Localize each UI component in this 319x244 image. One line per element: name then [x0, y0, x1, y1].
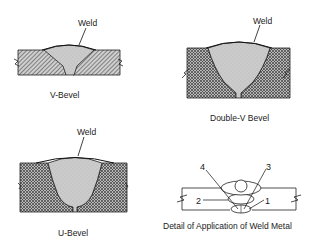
weld-label: Weld	[77, 127, 96, 137]
weld-leader	[79, 28, 86, 45]
caption-v-bevel: V-Bevel	[50, 90, 79, 100]
weld-leader	[78, 137, 84, 156]
pass-label-3: 3	[266, 162, 271, 172]
detail-panel: 4 3 2 1 Detail of Application of Weld Me…	[163, 162, 301, 231]
v-bevel-panel: Weld V-Bevel	[14, 18, 123, 100]
caption-u-bevel: U-Bevel	[58, 228, 88, 238]
break-mark-right	[291, 195, 301, 202]
pass-label-2: 2	[196, 196, 201, 206]
weld-leader	[254, 25, 260, 42]
u-bevel-panel: Weld U-Bevel	[18, 127, 128, 238]
break-mark-left	[177, 195, 187, 202]
weld-pass-middle	[228, 194, 254, 204]
caption-double-v-bevel: Double-V Bevel	[210, 113, 269, 123]
weld-pass-center	[235, 180, 247, 192]
pass-label-1: 1	[265, 196, 270, 206]
weld-label: Weld	[253, 16, 272, 26]
double-v-bevel-panel: Weld Double-V Bevel	[182, 16, 290, 123]
weld-bevel-diagram: Weld V-Bevel Weld Double-V Bevel Weld U-…	[0, 0, 319, 244]
weld-label: Weld	[78, 18, 97, 28]
caption-detail: Detail of Application of Weld Metal	[163, 221, 292, 231]
pass-label-4: 4	[200, 162, 205, 172]
